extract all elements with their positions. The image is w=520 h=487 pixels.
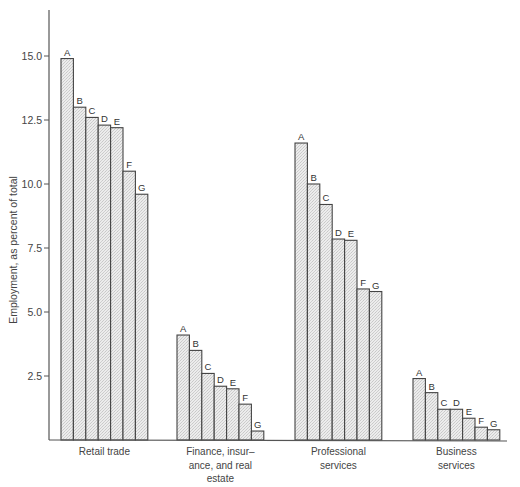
y-tick-label: 15.0 — [22, 50, 43, 62]
bar-letter-label: G — [254, 419, 261, 430]
bar-letter-label: A — [416, 367, 423, 378]
bar — [202, 373, 214, 440]
category-label: services — [438, 460, 475, 471]
category-label: services — [320, 460, 357, 471]
bar-letter-label: A — [180, 323, 187, 334]
bar — [61, 59, 73, 440]
bar — [450, 409, 462, 440]
bar — [295, 143, 307, 440]
bar-letter-label: G — [490, 418, 497, 429]
bar-letter-label: D — [453, 397, 460, 408]
bar — [475, 427, 487, 440]
bar-group: ABCDEFGProfessionalservices — [295, 131, 382, 470]
bar-letter-label: C — [205, 361, 212, 372]
bar-letter-label: F — [478, 415, 484, 426]
bar — [189, 350, 201, 440]
category-label: estate — [207, 473, 235, 484]
bar — [425, 393, 437, 440]
bar-chart: 2.55.07.510.012.515.0 ABCDEFGRetail trad… — [0, 0, 520, 487]
bar-letter-label: D — [101, 113, 108, 124]
bar-group: ABCDEFGFinance, insur–ance, and realesta… — [177, 323, 264, 484]
bar-group: ABCDEFGBusinessservices — [413, 367, 500, 471]
bar — [345, 240, 357, 440]
bar-letter-label: B — [76, 95, 82, 106]
bar — [73, 107, 85, 440]
bar — [177, 335, 189, 440]
bar-letter-label: G — [138, 182, 145, 193]
bar-letter-label: E — [466, 406, 472, 417]
bar-letter-label: G — [372, 280, 379, 291]
bar — [135, 194, 147, 440]
bar-letter-label: F — [126, 159, 132, 170]
bar — [214, 386, 226, 440]
bar-group: ABCDEFGRetail trade — [61, 47, 148, 457]
bar — [98, 125, 110, 440]
y-tick-label: 7.5 — [27, 242, 42, 254]
bar — [251, 431, 263, 440]
bar-letter-label: F — [242, 392, 248, 403]
y-axis-title: Employment, as percent of total — [7, 176, 19, 324]
category-label: Professional — [311, 446, 366, 457]
bar-letter-label: A — [298, 131, 305, 142]
bar — [369, 292, 381, 440]
bar — [438, 409, 450, 440]
bar-letter-label: E — [348, 228, 354, 239]
bar-letter-label: D — [335, 227, 342, 238]
bar-letter-label: E — [230, 377, 236, 388]
y-tick-label: 10.0 — [22, 178, 43, 190]
category-label: ance, and real — [189, 460, 252, 471]
bar — [357, 289, 369, 440]
bar-letter-label: F — [360, 277, 366, 288]
bar — [307, 184, 319, 440]
bar — [320, 204, 332, 440]
bar-letter-label: C — [89, 105, 96, 116]
bar — [463, 418, 475, 440]
bar — [487, 430, 499, 440]
y-tick-label: 12.5 — [22, 114, 43, 126]
bar — [227, 389, 239, 440]
bars: ABCDEFGRetail tradeABCDEFGFinance, insur… — [61, 47, 500, 484]
bar — [239, 404, 251, 440]
category-label: Business — [436, 446, 477, 457]
bar — [332, 239, 344, 440]
category-label: Retail trade — [79, 446, 131, 457]
bar-letter-label: A — [64, 47, 71, 58]
category-label: Finance, insur– — [186, 446, 255, 457]
bar-letter-label: B — [192, 338, 198, 349]
bar-letter-label: B — [310, 172, 316, 183]
bar-letter-label: C — [441, 397, 448, 408]
bar-letter-label: B — [428, 381, 434, 392]
bar — [111, 128, 123, 440]
bar-letter-label: C — [323, 192, 330, 203]
y-tick-label: 2.5 — [27, 370, 42, 382]
bar — [413, 379, 425, 440]
bar-letter-label: E — [114, 116, 120, 127]
bar — [86, 117, 98, 440]
bar-letter-label: D — [217, 374, 224, 385]
bar — [123, 171, 135, 440]
y-tick-label: 5.0 — [27, 306, 42, 318]
y-axis: 2.55.07.510.012.515.0 — [22, 10, 49, 440]
